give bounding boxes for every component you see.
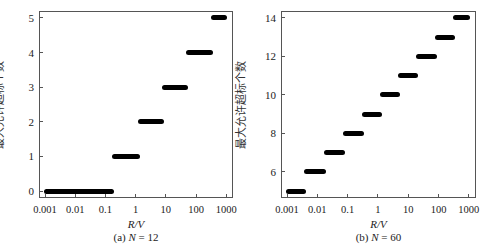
x-tick — [438, 194, 439, 198]
data-segment — [435, 35, 455, 40]
chart-panel-b: 681012140.0010.010.11101001000最大允许超标个数R/… — [0, 0, 244, 252]
data-segment — [380, 92, 400, 97]
caption-value: = 60 — [379, 231, 402, 243]
y-tick-label: 14 — [256, 12, 276, 24]
data-segment — [398, 73, 418, 78]
x-tick — [317, 194, 318, 198]
caption-variable: N — [371, 231, 378, 243]
data-segment — [416, 54, 436, 59]
data-segment — [324, 150, 345, 155]
x-axis-title: R/V — [359, 218, 399, 230]
y-tick — [281, 171, 285, 172]
data-segment — [343, 131, 364, 136]
y-tick — [281, 17, 285, 18]
y-tick-label: 10 — [256, 89, 276, 101]
y-tick — [281, 94, 285, 95]
y-tick — [281, 133, 285, 134]
x-tick — [347, 194, 348, 198]
figure-caption: (b) N = 60 — [329, 231, 429, 243]
caption-label: (b) — [356, 231, 372, 243]
data-segment — [304, 169, 326, 174]
y-axis-title: 最大允许超标个数 — [236, 50, 248, 160]
y-tick-label: 8 — [256, 127, 276, 139]
data-segment — [286, 189, 306, 194]
x-tick — [377, 194, 378, 198]
x-tick-label: 1000 — [451, 204, 487, 216]
x-tick — [468, 194, 469, 198]
x-tick — [287, 194, 288, 198]
y-tick — [281, 56, 285, 57]
y-tick-label: 12 — [256, 50, 276, 62]
x-tick — [408, 194, 409, 198]
y-tick-label: 6 — [256, 166, 276, 178]
data-segment — [453, 15, 470, 20]
data-segment — [362, 112, 382, 117]
